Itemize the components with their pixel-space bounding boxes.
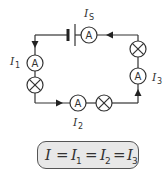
eq-equals: =	[113, 146, 126, 164]
eq-equals: =	[85, 146, 98, 164]
eq-sub-2: 2	[105, 156, 111, 166]
eq-i: I	[44, 146, 52, 164]
eq-sub-1: 1	[76, 156, 82, 166]
equation: I = I 1 = I 2 = I 3	[0, 0, 167, 175]
eq-equals: =	[56, 146, 69, 164]
eq-sub-3: 3	[132, 156, 138, 166]
